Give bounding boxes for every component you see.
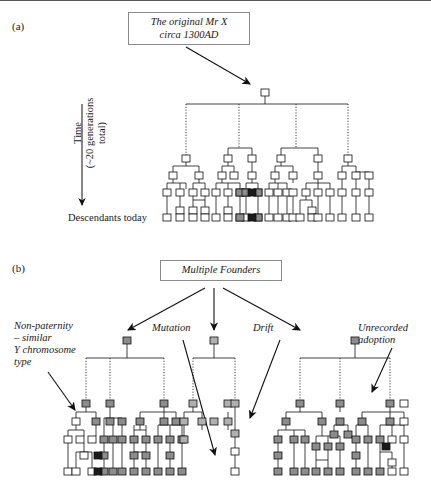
annotation-non-paternity: Non-paternity – similar Y chromosome typ… [14, 320, 106, 368]
panel-b-label: (b) [12, 262, 25, 274]
annotation-mutation: Mutation [152, 322, 191, 334]
panel-a-bottom-label: Descendants today [68, 212, 147, 223]
arrow-drift [250, 340, 280, 418]
panel-a-nodes [163, 89, 373, 221]
panel-a-grey-nodes [236, 189, 262, 221]
panel-b-left-white-nodes [64, 418, 96, 475]
pedigree-nodes [64, 89, 408, 475]
panel-b-founder-nodes [123, 337, 359, 344]
panel-a-time-axis-label: Time (~20 generations total) [72, 78, 108, 188]
arrow-non-paternity [48, 372, 75, 410]
panel-b-middle-nodes [180, 400, 239, 443]
panel-a-black-nodes [248, 189, 256, 221]
panel-a-callout: The original Mr X circa 1300AD [128, 12, 250, 45]
panel-a-label: (a) [12, 20, 24, 32]
annotation-drift: Drift [253, 322, 273, 334]
panel-b-right-white-nodes [388, 400, 408, 475]
panel-b-callout: Multiple Founders [160, 260, 282, 281]
annotation-unrecorded-adoption: Unrecorded adoption [358, 322, 428, 346]
top-rule [0, 0, 431, 1]
pedigree-vector-layer [0, 0, 431, 483]
panel-b-left-nodes [82, 400, 186, 475]
figure-canvas: (a) The original Mr X circa 1300AD Time … [0, 0, 431, 483]
arrow-unrecorded-adoption [372, 348, 392, 392]
panel-b-right-nodes [274, 400, 394, 475]
arrow-mutation [183, 340, 215, 455]
panel-a-founder-arrow [186, 47, 250, 84]
